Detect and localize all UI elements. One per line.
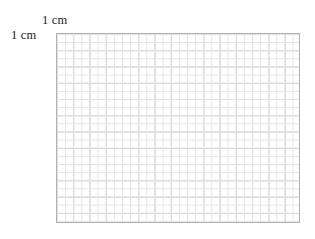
graph-paper-grid bbox=[56, 33, 300, 223]
graph-paper-figure: 1 cm 1 cm bbox=[0, 0, 315, 239]
vertical-scale-label: 1 cm bbox=[11, 28, 36, 42]
horizontal-scale-label: 1 cm bbox=[42, 13, 67, 27]
